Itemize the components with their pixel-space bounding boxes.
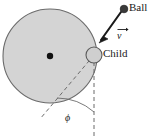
figure-canvas [0, 0, 150, 140]
center-dot-icon [47, 53, 53, 59]
ball-label: Ball [129, 2, 147, 13]
child-marker [86, 47, 102, 63]
child-label: Child [103, 48, 127, 59]
angle-phi-label: ϕ [65, 113, 70, 123]
vector-arrow-overbar-icon [117, 27, 129, 32]
ball-marker [120, 5, 128, 13]
velocity-vector-label: v [117, 31, 121, 41]
physics-figure: Ball Child v ϕ [0, 0, 150, 140]
